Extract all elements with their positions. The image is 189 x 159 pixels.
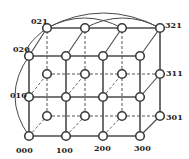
node-100 xyxy=(62,132,71,141)
node-000 xyxy=(25,132,34,141)
label-010: 010 xyxy=(10,90,27,100)
node-210 xyxy=(99,93,108,102)
label-020: 020 xyxy=(13,44,30,54)
node-211 xyxy=(118,70,127,79)
node-220 xyxy=(99,52,108,61)
nodes xyxy=(25,24,165,141)
label-321: 321 xyxy=(165,20,182,30)
label-301: 301 xyxy=(166,112,183,122)
label-311: 311 xyxy=(166,68,183,78)
node-320 xyxy=(136,52,145,61)
edge-depth xyxy=(140,28,160,56)
label-100: 100 xyxy=(56,145,73,155)
node-300 xyxy=(136,132,145,141)
node-101 xyxy=(81,112,90,121)
node-311 xyxy=(156,70,165,79)
network-diagram: 000100200300010020021321311301 xyxy=(0,0,189,159)
node-200 xyxy=(99,132,108,141)
label-000: 000 xyxy=(16,145,33,155)
label-021: 021 xyxy=(31,16,48,26)
label-300: 300 xyxy=(134,143,151,153)
label-200: 200 xyxy=(94,143,111,153)
node-121 xyxy=(81,24,90,33)
node-201 xyxy=(118,112,127,121)
node-110 xyxy=(62,93,71,102)
node-001 xyxy=(43,112,52,121)
node-011 xyxy=(43,70,52,79)
node-221 xyxy=(118,24,127,33)
node-301 xyxy=(156,112,165,121)
node-321 xyxy=(156,24,165,33)
node-120 xyxy=(62,52,71,61)
node-111 xyxy=(81,70,90,79)
node-310 xyxy=(136,93,145,102)
